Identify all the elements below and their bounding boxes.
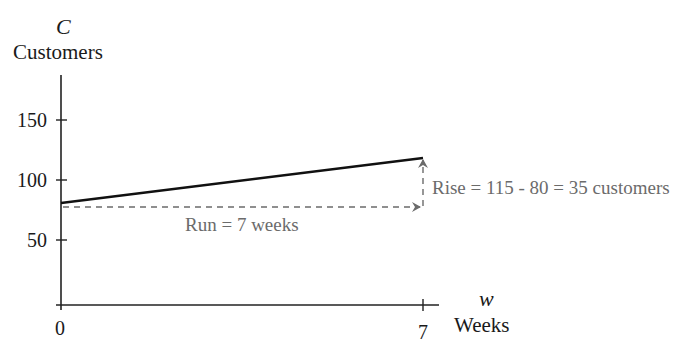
y-axis-variable: C bbox=[56, 16, 71, 38]
x-tick-label-7: 7 bbox=[418, 322, 428, 342]
y-tick-label-100: 100 bbox=[17, 170, 47, 190]
x-axis-variable: w bbox=[479, 288, 494, 310]
y-tick-label-150: 150 bbox=[17, 110, 47, 130]
run-annotation: Run = 7 weeks bbox=[185, 215, 299, 234]
data-line bbox=[61, 158, 423, 203]
rise-annotation: Rise = 115 - 80 = 35 customers bbox=[432, 178, 670, 197]
x-tick-label-0: 0 bbox=[55, 318, 65, 338]
y-tick-label-50: 50 bbox=[27, 230, 47, 250]
x-axis-label: Weeks bbox=[454, 315, 509, 336]
y-axis-label: Customers bbox=[13, 42, 103, 63]
